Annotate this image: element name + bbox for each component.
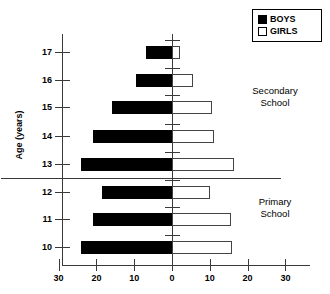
y-axis-title: Age (years) [14, 90, 24, 180]
legend-label-boys: BOYS [270, 14, 296, 24]
bar-boys-age-10 [81, 241, 172, 254]
bar-girls-age-14 [172, 130, 214, 143]
left-axis-line [62, 34, 63, 266]
primary-school-annotation: Primary School [232, 196, 318, 220]
x-axis-label-20: 20 [235, 273, 261, 283]
x-axis-line [62, 265, 310, 266]
center-axis-tick-13 [165, 152, 180, 153]
bar-boys-age-13 [81, 158, 172, 171]
bar-boys-age-14 [93, 130, 172, 143]
x-axis-label--10: 10 [121, 273, 147, 283]
center-axis-tick-15 [165, 95, 180, 96]
x-axis-label-30: 30 [272, 273, 298, 283]
x-axis-tick--30 [59, 259, 60, 271]
center-axis-tick-16 [165, 68, 180, 69]
x-axis-label-10: 10 [197, 273, 223, 283]
bar-girls-age-16 [172, 74, 193, 87]
y-axis-tick-17 [55, 52, 70, 53]
x-axis-label-0: 0 [159, 273, 185, 283]
bar-girls-age-15 [172, 101, 212, 114]
bar-boys-age-16 [136, 74, 172, 87]
bar-boys-age-11 [93, 213, 172, 226]
bar-girls-age-13 [172, 158, 234, 171]
x-axis-tick--20 [96, 259, 97, 271]
chart-legend: BOYS GIRLS [252, 9, 322, 42]
y-axis-label-14: 14 [30, 131, 52, 141]
bar-girls-age-17 [172, 46, 180, 59]
legend-label-girls: GIRLS [270, 26, 298, 36]
primary-school-line1: Primary [232, 196, 318, 208]
bar-girls-age-10 [172, 241, 232, 254]
y-axis-label-12: 12 [30, 187, 52, 197]
secondary-school-line2: School [232, 97, 318, 109]
population-pyramid-chart: Age (years) 1716151413121110 30201001020… [0, 0, 330, 294]
secondary-school-annotation: Secondary School [232, 85, 318, 109]
y-axis-label-11: 11 [30, 214, 52, 224]
y-axis-tick-10 [55, 247, 70, 248]
x-axis-label--30: 30 [46, 273, 72, 283]
center-axis-tick-11 [165, 207, 180, 208]
bar-boys-age-15 [112, 101, 172, 114]
y-axis-label-13: 13 [30, 159, 52, 169]
y-axis-tick-14 [55, 136, 70, 137]
y-axis-tick-11 [55, 219, 70, 220]
x-axis-tick-20 [248, 259, 249, 271]
x-axis-label--20: 20 [83, 273, 109, 283]
primary-school-line2: School [232, 208, 318, 220]
y-axis-tick-13 [55, 164, 70, 165]
center-axis-tick-14 [165, 124, 180, 125]
x-axis-tick-0 [172, 259, 173, 271]
x-axis-tick-30 [285, 259, 286, 271]
secondary-school-line1: Secondary [232, 85, 318, 97]
y-axis-tick-16 [55, 80, 70, 81]
legend-swatch-girls-icon [258, 27, 267, 36]
x-axis-tick--10 [134, 259, 135, 271]
y-axis-label-15: 15 [30, 102, 52, 112]
y-axis-tick-15 [55, 107, 70, 108]
y-axis-label-10: 10 [30, 242, 52, 252]
bar-boys-age-17 [146, 46, 172, 59]
legend-item-boys: BOYS [258, 13, 317, 25]
legend-item-girls: GIRLS [258, 25, 317, 37]
bar-boys-age-12 [102, 186, 172, 199]
center-axis-tick-17 [165, 40, 180, 41]
center-axis-tick-12 [165, 180, 180, 181]
bar-girls-age-11 [172, 213, 231, 226]
y-axis-label-16: 16 [30, 75, 52, 85]
legend-swatch-boys-icon [258, 15, 267, 24]
y-axis-tick-12 [55, 192, 70, 193]
x-axis-tick-10 [210, 259, 211, 271]
y-axis-label-17: 17 [30, 47, 52, 57]
center-axis-tick-10 [165, 235, 180, 236]
primary-secondary-divider [1, 178, 281, 179]
bar-girls-age-12 [172, 186, 210, 199]
